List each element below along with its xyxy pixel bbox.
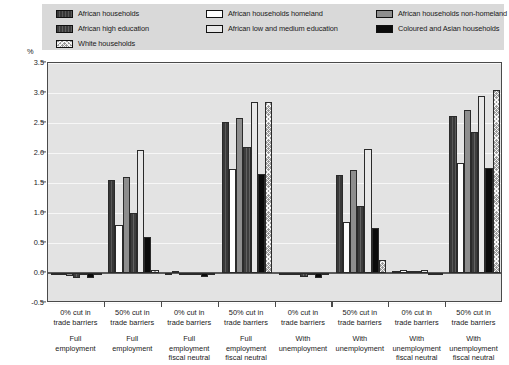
bar[interactable] (87, 273, 94, 278)
bar-slot (187, 63, 194, 301)
x-axis-regime-text: Withunemployment (275, 334, 332, 353)
bar[interactable] (73, 273, 80, 278)
bar[interactable] (286, 273, 293, 275)
bar[interactable] (201, 273, 208, 277)
bar-slot (258, 63, 265, 301)
x-axis-scenario-text: 0% cut intrade barriers (388, 308, 445, 327)
legend-swatch-african-households-homeland (206, 10, 223, 18)
bar[interactable] (392, 271, 399, 273)
bar-slot (108, 63, 115, 301)
legend-item-african-low-and-medium-education: African low and medium education (206, 21, 376, 36)
bar[interactable] (229, 169, 236, 273)
legend-item-african-households-homeland: African households homeland (206, 6, 376, 21)
bar[interactable] (51, 273, 58, 275)
legend-item-african-households: African households (56, 6, 206, 21)
bar[interactable] (308, 273, 315, 275)
bar[interactable] (137, 150, 144, 273)
bar[interactable] (80, 273, 87, 275)
bar[interactable] (315, 273, 322, 278)
bar[interactable] (421, 270, 428, 273)
y-axis-tick-mark (41, 121, 46, 122)
bar[interactable] (94, 273, 101, 275)
bar[interactable] (407, 271, 414, 273)
bar[interactable] (428, 273, 435, 275)
x-axis-text-line: employment (161, 344, 218, 354)
bar[interactable] (172, 271, 179, 273)
x-axis-text-line: 0% cut in (161, 308, 218, 318)
bar-slot (449, 63, 456, 301)
bar[interactable] (336, 175, 343, 273)
legend-label-african-households-non-homeland: African households non-homeland (398, 10, 507, 17)
x-axis-text-line: trade barriers (275, 318, 332, 328)
x-axis-text-line: 50% cut in (445, 308, 502, 318)
bar[interactable] (379, 260, 386, 273)
bar-slot (115, 63, 122, 301)
bar[interactable] (322, 273, 329, 275)
bar[interactable] (194, 273, 201, 275)
bar[interactable] (66, 273, 73, 276)
x-axis-text-line: unemployment (331, 344, 388, 354)
x-axis-group-separator (388, 302, 389, 307)
y-axis-tick-mark (41, 61, 46, 62)
bar-slot (222, 63, 229, 301)
bar[interactable] (243, 147, 250, 273)
x-axis-group-label: 50% cut intrade barriersWithunemployment (331, 308, 388, 353)
bar[interactable] (449, 116, 456, 273)
bar[interactable] (130, 213, 137, 273)
bar[interactable] (279, 273, 286, 275)
bar-slot (421, 63, 428, 301)
bar[interactable] (144, 237, 151, 273)
legend-swatch-coloured-and-asian-households (376, 25, 393, 33)
x-axis-text-line: trade barriers (218, 318, 275, 328)
bar-slot (436, 63, 443, 301)
bar[interactable] (372, 228, 379, 273)
bar[interactable] (293, 273, 300, 275)
x-axis-group-label: 0% cut intrade barriersFullemployment (47, 308, 104, 353)
bar[interactable] (300, 273, 307, 277)
bar[interactable] (436, 273, 443, 275)
x-axis-text-line: Full (218, 334, 275, 344)
bar[interactable] (265, 102, 272, 273)
x-axis-regime-text: Withunemploymentfiscal neutral (388, 334, 445, 363)
bar[interactable] (208, 273, 215, 275)
bar[interactable] (108, 180, 115, 273)
bar-slot (123, 63, 130, 301)
bar[interactable] (493, 90, 500, 273)
bar[interactable] (222, 122, 229, 273)
bar-slot (87, 63, 94, 301)
bar[interactable] (457, 163, 464, 273)
bar[interactable] (357, 206, 364, 273)
x-axis-text-line: 50% cut in (218, 308, 275, 318)
bar[interactable] (350, 170, 357, 273)
bar[interactable] (414, 271, 421, 273)
bar[interactable] (464, 110, 471, 273)
bar-group (48, 63, 105, 301)
x-axis-group-label: 0% cut intrade barriersWithunemploymentf… (388, 308, 445, 363)
y-axis-tick-mark (41, 241, 46, 242)
x-axis-group-label: 50% cut intrade barriersFullemployment (104, 308, 161, 353)
bar[interactable] (478, 96, 485, 273)
bar[interactable] (187, 273, 194, 275)
x-axis-text-line: unemployment (445, 344, 502, 354)
x-axis-text-line: fiscal neutral (161, 353, 218, 363)
bar[interactable] (471, 132, 478, 273)
bar[interactable] (400, 270, 407, 273)
bar[interactable] (251, 102, 258, 273)
bar[interactable] (123, 177, 130, 273)
bar[interactable] (485, 168, 492, 273)
bar[interactable] (179, 273, 186, 275)
x-axis-group-label: 0% cut intrade barriersFullemploymentfis… (161, 308, 218, 363)
bar[interactable] (343, 222, 350, 273)
x-axis-text-line: trade barriers (161, 318, 218, 328)
bar-slot (279, 63, 286, 301)
bar[interactable] (151, 270, 158, 273)
bar[interactable] (58, 273, 65, 275)
x-axis-group-label: 50% cut intrade barriersWithunemployment… (445, 308, 502, 363)
y-axis-tick-mark (41, 181, 46, 182)
bar[interactable] (165, 273, 172, 275)
bar[interactable] (236, 118, 243, 273)
bar[interactable] (364, 149, 371, 273)
bar[interactable] (258, 174, 265, 273)
x-axis-text-line: fiscal neutral (218, 353, 275, 363)
bar[interactable] (115, 225, 122, 273)
